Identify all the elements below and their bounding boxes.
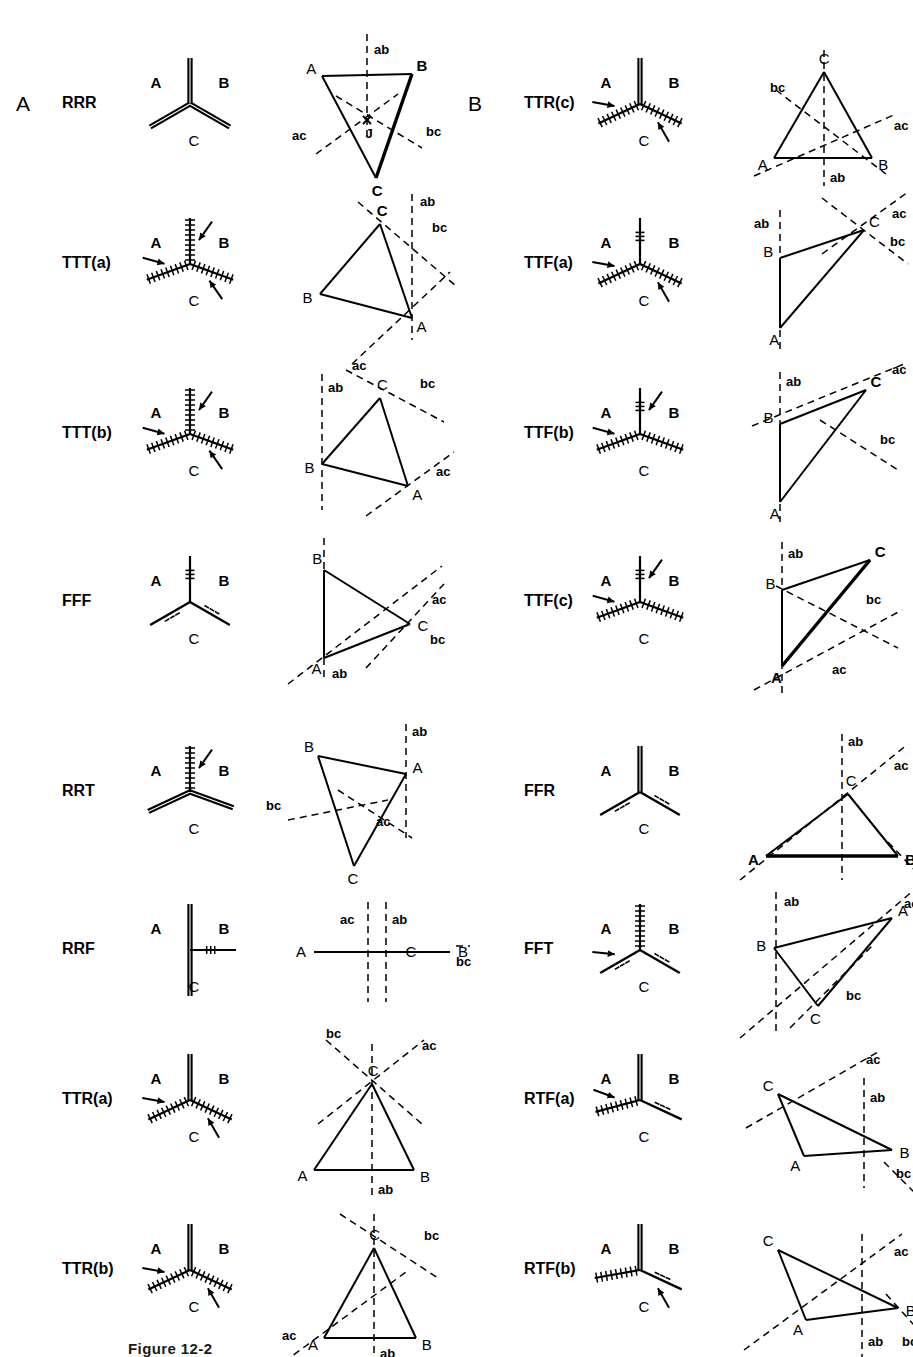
fault-tick — [655, 954, 660, 957]
fault-tick — [615, 967, 620, 970]
row-TTF(a): ABCabbcacABC — [592, 192, 908, 350]
velocity-vertex-A: A — [308, 1336, 318, 1353]
velocity-vertex-C: C — [819, 50, 830, 67]
line-label-bc: bc — [866, 592, 881, 607]
line-label-ac: ac — [432, 592, 446, 607]
line-label-bc: bc — [420, 376, 435, 391]
row-TTR(c): ABCabbcacABC — [592, 50, 908, 186]
trench-barb — [630, 1267, 632, 1277]
fault-tick — [615, 809, 620, 812]
fault-tick — [660, 957, 665, 960]
row-TTF(b): ABCabbcacABC — [593, 362, 907, 522]
velocity-edge-CA — [314, 1084, 372, 1170]
junction-label-C: C — [639, 1298, 650, 1315]
junction-label-B: B — [219, 572, 230, 589]
velocity-vertex-C: C — [810, 1010, 821, 1027]
velocity-edge-CA — [380, 224, 412, 318]
junction-label-B: B — [669, 404, 680, 421]
velocity-vertex-C: C — [372, 182, 383, 199]
velocity-edge-BC — [374, 1248, 416, 1338]
junction-diagram-RTF(a): ABC — [593, 1054, 681, 1145]
velocity-edge-BC — [774, 948, 818, 1006]
trench-barb — [635, 1266, 637, 1276]
plate-motion-arrow-A-head — [607, 101, 614, 108]
velocity-vertex-A: A — [790, 1157, 800, 1174]
junction-label-B: B — [219, 234, 230, 251]
line-label-bc: bc — [770, 80, 785, 95]
velocity-vertex-C: C — [875, 543, 886, 560]
row-label-TTR(a): TTR(a) — [62, 1090, 113, 1107]
velocity-vertex-B: B — [303, 289, 313, 306]
ridge-segment — [189, 794, 232, 810]
velocity-diagram-TTF(b): abbcacABC — [752, 362, 906, 522]
row-RTF(b): ABCabbcacABC — [595, 1224, 913, 1357]
line-label-ab: ab — [420, 194, 435, 209]
fault-tick — [210, 609, 215, 612]
velocity-diagram-FFF: abbcacABC — [288, 538, 446, 684]
junction-diagram-FFT: ABC — [592, 904, 679, 995]
line-label-ac: ac — [892, 206, 906, 221]
line-label-bc: bc — [430, 632, 445, 647]
ridge-segment — [149, 793, 191, 812]
velocity-vertex-A: A — [770, 505, 780, 522]
velocity-vertex-C: C — [348, 870, 359, 887]
junction-label-A: A — [601, 572, 612, 589]
line-label-ab: ab — [788, 546, 803, 561]
row-TTF(c): ABCabbcacABC — [593, 542, 902, 694]
line-label-ac: ac — [894, 758, 908, 773]
panel-letter-b: B — [468, 92, 483, 116]
row-label-FFT: FFT — [524, 940, 554, 957]
line-label-ab: ab — [378, 1182, 393, 1197]
velocity-vertex-B: B — [422, 1336, 432, 1353]
velocity-vertex-A: A — [416, 318, 426, 335]
fault-tick — [666, 1107, 671, 1109]
fault-tick — [655, 796, 660, 799]
row-FFR: ABCabbcacABC — [600, 734, 913, 880]
velocity-vertex-A: A — [412, 486, 422, 503]
velocity-vertex-B: B — [756, 937, 766, 954]
junction-point-label: J — [365, 126, 372, 141]
fault-tick — [620, 806, 625, 809]
line-label-ab: ab — [392, 912, 407, 927]
line-label-ac: ac — [894, 1244, 908, 1259]
trench-barb — [596, 1273, 598, 1283]
fault-tick — [660, 799, 665, 802]
junction-diagram-FFF: ABC — [150, 556, 230, 647]
velocity-vertex-A: A — [769, 331, 779, 348]
velocity-diagram-FFR: abbcacABC — [740, 734, 913, 880]
fault-tick — [165, 619, 170, 622]
line-label-bc: bc — [880, 432, 895, 447]
row-label-TTR(c): TTR(c) — [524, 94, 575, 111]
velocity-diagram-RTF(b): abbcacABC — [744, 1232, 913, 1357]
velocity-vertex-B: B — [763, 409, 773, 426]
construction-line-bc — [336, 96, 422, 148]
junction-label-B: B — [669, 1240, 680, 1257]
construction-line-bc — [776, 90, 886, 174]
line-label-ab: ab — [868, 1334, 883, 1349]
row-FFF: ABCabbcacABC — [150, 538, 446, 684]
trench-barb — [620, 1268, 622, 1278]
line-label-bc: bc — [266, 798, 281, 813]
line-label-bc: bc — [890, 234, 905, 249]
velocity-edge-CA — [766, 794, 848, 856]
junction-label-B: B — [219, 74, 230, 91]
velocity-vertex-B: B — [763, 243, 773, 260]
construction-line-ac — [366, 452, 454, 516]
line-label-ab: ab — [848, 734, 863, 749]
ridge-segment — [191, 103, 231, 126]
junction-label-A: A — [601, 762, 612, 779]
junction-label-C: C — [189, 132, 200, 149]
velocity-diagram-TTR(c): abbcacABC — [754, 50, 908, 186]
junction-diagram-TTF(b): ABC — [593, 388, 684, 479]
fault-tick — [215, 612, 220, 615]
junction-label-B: B — [669, 234, 680, 251]
construction-line-ac — [754, 114, 896, 176]
construction-line-ac — [740, 890, 913, 1038]
junction-diagram-TTR(c): ABC — [592, 58, 682, 149]
junction-label-A: A — [601, 1070, 612, 1087]
junction-label-B: B — [219, 404, 230, 421]
junction-diagram-TTR(a): ABC — [142, 1054, 232, 1145]
velocity-vertex-A: A — [748, 851, 759, 868]
row-label-RRF: RRF — [62, 940, 95, 957]
line-label-ab: ab — [380, 1346, 395, 1357]
